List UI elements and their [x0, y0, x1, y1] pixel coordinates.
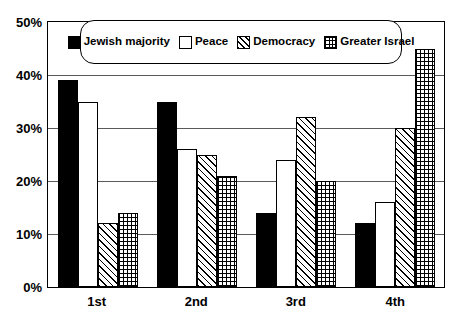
legend-swatch-icon [237, 36, 250, 49]
bar [375, 202, 395, 287]
bar [177, 149, 197, 287]
legend-swatch-icon [324, 36, 337, 49]
legend-item: Jewish majority [68, 36, 170, 49]
x-tick-label: 2nd [147, 292, 247, 316]
x-tick-label: 3rd [246, 292, 346, 316]
y-tick-label: 30% [16, 122, 42, 135]
bar [316, 181, 336, 287]
legend-swatch-icon [179, 36, 192, 49]
bar [118, 213, 138, 287]
bar [98, 223, 118, 287]
legend-item: Greater Israel [324, 36, 414, 49]
chart-legend: Jewish majorityPeaceDemocracyGreater Isr… [80, 20, 402, 64]
x-tick-label: 4th [346, 292, 446, 316]
y-tick-label: 40% [16, 69, 42, 82]
x-axis: 1st2nd3rd4th [47, 292, 445, 316]
bar [78, 102, 98, 288]
y-tick-label: 0% [23, 281, 42, 294]
bar [197, 155, 217, 288]
legend-item: Democracy [237, 36, 315, 49]
legend-label: Peace [195, 36, 228, 48]
bar [256, 213, 276, 287]
bar [355, 223, 375, 287]
bar [58, 80, 78, 287]
legend-label: Democracy [253, 36, 315, 48]
y-tick-label: 10% [16, 228, 42, 241]
bar [276, 160, 296, 287]
y-tick-label: 20% [16, 175, 42, 188]
y-tick-label: 50% [16, 16, 42, 29]
legend-label: Jewish majority [84, 36, 170, 48]
legend-swatch-icon [68, 36, 81, 49]
bar-chart: 0%10%20%30%40%50% 1st2nd3rd4th Jewish ma… [0, 0, 465, 326]
x-tick-label: 1st [47, 292, 147, 316]
y-axis: 0%10%20%30%40%50% [0, 0, 46, 326]
legend-label: Greater Israel [340, 36, 414, 48]
bar [415, 49, 435, 288]
bar [157, 102, 177, 288]
bar [217, 176, 237, 287]
legend-item: Peace [179, 36, 228, 49]
bar [296, 117, 316, 287]
bar [395, 128, 415, 287]
